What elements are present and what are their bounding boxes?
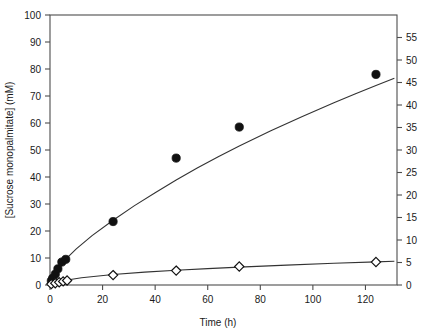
y2-tick-label: 55 <box>406 32 418 43</box>
y2-tick-label: 25 <box>406 167 418 178</box>
sucrose-monopalmitate-vs-time-chart: 020406080100120 0102030405060708090100 0… <box>0 0 437 335</box>
y2-tick-label: 10 <box>406 235 418 246</box>
y-tick-label: 60 <box>30 118 42 129</box>
y-tick-label: 80 <box>30 64 42 75</box>
x-tick-label: 120 <box>357 294 374 305</box>
x-tick-label: 60 <box>202 294 214 305</box>
chart-container: 020406080100120 0102030405060708090100 0… <box>0 0 437 335</box>
y-tick-label: 90 <box>30 37 42 48</box>
y-tick-label: 40 <box>30 172 42 183</box>
y-tick-label: 10 <box>30 253 42 264</box>
y2-tick-label: 0 <box>406 280 412 291</box>
y2-tick-label: 15 <box>406 212 418 223</box>
y2-tick-label: 50 <box>406 55 418 66</box>
y2-tick-label: 35 <box>406 122 418 133</box>
data-point-filled-circle <box>109 217 117 225</box>
data-point-filled-circle <box>172 154 180 162</box>
y2-tick-label: 20 <box>406 190 418 201</box>
y2-tick-label: 30 <box>406 145 418 156</box>
y-tick-label: 30 <box>30 199 42 210</box>
x-tick-label: 80 <box>255 294 267 305</box>
x-tick-label: 40 <box>150 294 162 305</box>
x-axis-title: Time (h) <box>200 317 237 328</box>
y2-tick-label: 5 <box>406 257 412 268</box>
x-tick-label: 0 <box>47 294 53 305</box>
x-tick-label: 100 <box>305 294 322 305</box>
y-axis-left-title: [Sucrose monopalmitate] (mM) <box>4 82 15 219</box>
y2-tick-label: 45 <box>406 77 418 88</box>
y2-tick-label: 40 <box>406 100 418 111</box>
y-tick-label: 70 <box>30 91 42 102</box>
y-tick-label: 50 <box>30 145 42 156</box>
data-point-filled-circle <box>372 70 380 78</box>
data-point-filled-circle <box>62 255 70 263</box>
y-tick-label: 100 <box>24 10 41 21</box>
y-tick-label: 20 <box>30 226 42 237</box>
y-tick-label: 0 <box>35 280 41 291</box>
data-point-filled-circle <box>235 123 243 131</box>
x-tick-label: 20 <box>97 294 109 305</box>
